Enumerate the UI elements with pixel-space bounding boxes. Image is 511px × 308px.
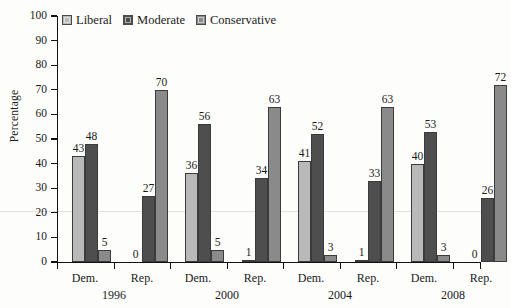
x-axis-year-label: 2004 <box>285 288 395 303</box>
bar-liberal <box>355 260 368 262</box>
bar-value-label: 56 <box>192 111 218 122</box>
y-axis-tick-label: 40 <box>20 158 47 169</box>
bar-moderate <box>255 178 268 262</box>
bar-conservative <box>437 255 450 262</box>
x-axis-party-label: Dem. <box>394 271 454 286</box>
y-axis-tick-label: 50 <box>20 133 47 144</box>
bar-value-label: 72 <box>488 72 511 83</box>
y-axis-tick-label: 90 <box>20 35 47 46</box>
bar-moderate <box>368 181 381 262</box>
y-axis-tick-label: 60 <box>20 108 47 119</box>
x-axis-tick <box>480 262 481 269</box>
bar-value-label: 63 <box>375 94 401 105</box>
x-axis-line <box>57 262 480 263</box>
y-axis-title: Percentage <box>8 76 20 156</box>
bar-conservative <box>381 107 394 262</box>
plot-area: 4348502770365651346341523133634053302672 <box>57 16 480 262</box>
y-axis-tick-label: 10 <box>20 231 47 242</box>
bar-liberal <box>298 161 311 262</box>
y-axis-tick-label: 70 <box>20 84 47 95</box>
x-axis-party-label: Dem. <box>168 271 228 286</box>
bar-value-label: 52 <box>305 121 331 132</box>
bar-conservative <box>211 250 224 262</box>
bar-moderate <box>142 196 155 262</box>
x-axis-tick <box>227 262 228 269</box>
x-axis-party-label: Dem. <box>55 271 115 286</box>
bar-value-label: 63 <box>262 94 288 105</box>
x-axis-tick <box>170 262 171 269</box>
bar-value-label: 3 <box>431 242 457 253</box>
bar-value-label: 5 <box>205 237 231 248</box>
bar-conservative <box>155 90 168 262</box>
x-axis-tick <box>453 262 454 269</box>
y-axis-tick-label: 100 <box>20 10 47 21</box>
x-axis-party-label: Rep. <box>338 271 398 286</box>
bar-value-label: 5 <box>92 237 118 248</box>
y-axis-tick-label: 0 <box>20 256 47 267</box>
x-axis-tick <box>57 262 58 269</box>
bar-conservative <box>494 85 507 262</box>
x-axis-party-label: Rep. <box>451 271 511 286</box>
y-axis-tick-label: 30 <box>20 182 47 193</box>
x-axis-tick <box>114 262 115 269</box>
bar-conservative <box>324 255 337 262</box>
bar-conservative <box>268 107 281 262</box>
x-axis-tick <box>283 262 284 269</box>
bar-value-label: 48 <box>79 131 105 142</box>
bar-liberal <box>242 260 255 262</box>
x-axis-tick <box>340 262 341 269</box>
bar-conservative <box>98 250 111 262</box>
y-axis-tick-label: 20 <box>20 207 47 218</box>
x-axis-tick <box>396 262 397 269</box>
x-axis-year-label: 2008 <box>398 288 508 303</box>
x-axis-party-label: Dem. <box>281 271 341 286</box>
bar-value-label: 53 <box>418 119 444 130</box>
x-axis-party-label: Rep. <box>225 271 285 286</box>
x-axis-party-label: Rep. <box>112 271 172 286</box>
bar-liberal <box>411 164 424 262</box>
y-axis-tick-label: 80 <box>20 59 47 70</box>
bar-value-label: 3 <box>318 242 344 253</box>
bar-liberal <box>185 173 198 262</box>
x-axis-year-label: 2000 <box>172 288 282 303</box>
bar-liberal <box>72 156 85 262</box>
bar-value-label: 70 <box>149 77 175 88</box>
x-axis-year-label: 1996 <box>59 288 169 303</box>
bar-moderate <box>481 198 494 262</box>
